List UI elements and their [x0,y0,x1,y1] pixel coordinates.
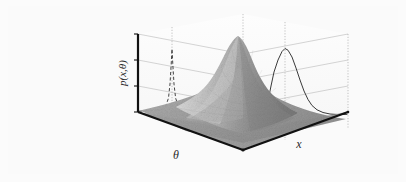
theta-axis-label: θ [173,148,179,162]
figure-panel: p(x,θ) θ x [0,0,406,182]
3d-surface-plot: p(x,θ) θ x [0,0,406,182]
z-axis-label: p(x,θ) [116,60,129,87]
x-axis-label: x [295,137,302,151]
